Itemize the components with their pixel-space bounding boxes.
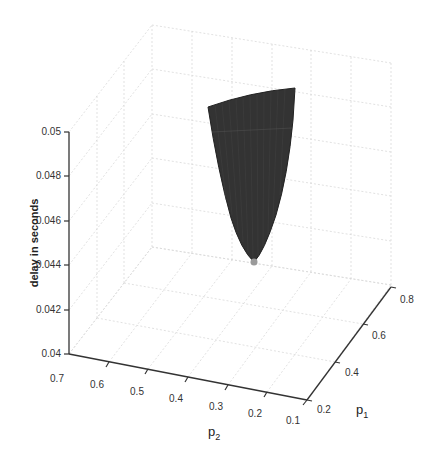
p1-tick-labels: 0.2 0.4 0.6 0.8 xyxy=(317,294,414,415)
p1-axis-label: p1 xyxy=(356,402,368,420)
p2-tick-labels: 0.7 0.6 0.5 0.4 0.3 0.2 0.1 xyxy=(50,373,300,426)
z-tick: 0.04 xyxy=(42,348,62,359)
p2-axis-label: p2 xyxy=(208,424,220,442)
minimum-marker xyxy=(251,259,258,266)
p2-tick: 0.6 xyxy=(90,379,104,390)
p2-tick: 0.1 xyxy=(286,415,300,426)
z-tick: 0.048 xyxy=(36,170,61,181)
surface-plot-3d: 0.05 0.048 0.046 0.044 0.042 0.04 0.7 0.… xyxy=(0,0,437,468)
p2-tick: 0.2 xyxy=(248,408,262,419)
p1-tick: 0.6 xyxy=(372,330,386,341)
p2-tick: 0.3 xyxy=(209,401,223,412)
p2-tick: 0.5 xyxy=(130,386,144,397)
p1-tick: 0.2 xyxy=(317,404,331,415)
z-tick: 0.05 xyxy=(42,126,62,137)
surface-mesh xyxy=(208,88,295,266)
p1-tick: 0.4 xyxy=(345,367,359,378)
p1-tick: 0.8 xyxy=(400,294,414,305)
z-tick: 0.042 xyxy=(36,304,61,315)
z-axis-label: delay in seconds xyxy=(28,199,40,288)
p1-axis-line xyxy=(307,287,391,400)
p2-tick: 0.7 xyxy=(50,373,64,384)
p2-tick: 0.4 xyxy=(169,393,183,404)
